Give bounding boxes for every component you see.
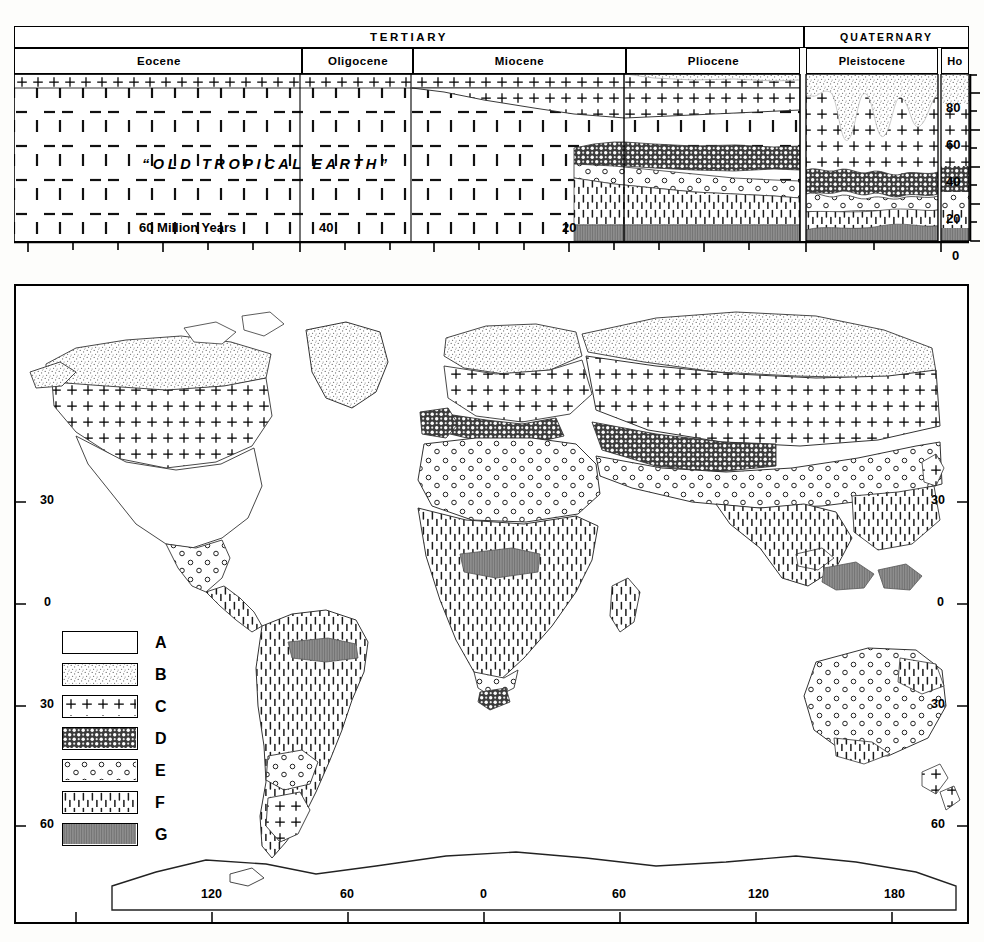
region-australasia: [796, 548, 960, 810]
legend-label-c: C: [155, 698, 167, 716]
epoch-header-row: Eocene Oligocene Miocene Pliocene: [14, 48, 800, 74]
region-north-america: [30, 312, 388, 632]
map-lat-label-right-30s: 30: [931, 697, 945, 711]
legend-item-c: C: [62, 692, 192, 721]
epoch-label-pleistocene: Pleistocene: [807, 49, 937, 73]
legend-item-e: E: [62, 756, 192, 785]
region-antarctica: [112, 852, 956, 910]
legend-label-a: A: [155, 634, 167, 652]
epoch-header-pleistocene: Pleistocene: [806, 48, 938, 74]
map-lat-label-right-60s: 60: [931, 817, 945, 831]
y-tick-label-20: 20: [946, 211, 960, 226]
legend-item-f: F: [62, 788, 192, 817]
timechart-plot: “OLD TROPICAL EARTH”: [14, 74, 969, 241]
legend-item-d: D: [62, 724, 192, 753]
legend-item-g: G: [62, 820, 192, 849]
epoch-header-holocene: Ho: [941, 48, 969, 74]
epoch-label-oligocene: Oligocene: [303, 49, 413, 73]
map-lon-label-60w: 60: [340, 887, 354, 901]
map-lon-label-120e: 120: [748, 887, 769, 901]
legend-item-a: A: [62, 628, 192, 657]
legend-label-g: G: [155, 826, 167, 844]
map-lat-label-right-30n: 30: [931, 493, 945, 507]
x-tick-label-20: 20: [562, 220, 576, 235]
x-tick-label-40: 40: [319, 220, 333, 235]
y-tick-label-60: 60: [946, 137, 960, 152]
legend-swatch-c: [62, 695, 138, 718]
epoch-label-miocene: Miocene: [413, 49, 626, 73]
legend-label-e: E: [155, 762, 166, 780]
map-legend: A B C D E: [62, 628, 192, 852]
map-lon-label-120w: 120: [201, 887, 222, 901]
map-lat-label-left-0: 0: [44, 595, 51, 609]
timechart-y-axis: [969, 74, 984, 246]
stratigraphic-chart: TERTIARY QUATERNARY Eocene Oligocene Mio…: [14, 26, 969, 266]
legend-label-d: D: [155, 730, 167, 748]
map-lon-label-0: 0: [480, 887, 487, 901]
legend-item-b: B: [62, 660, 192, 689]
era-label-tertiary: TERTIARY: [15, 27, 803, 47]
legend-swatch-a: [62, 631, 138, 654]
y-tick-label-80: 80: [946, 100, 960, 115]
epoch-label-holocene: Ho: [942, 49, 968, 73]
map-lon-label-60e: 60: [612, 887, 626, 901]
y-tick-label-40: 40: [946, 174, 960, 189]
timechart-x-axis: [14, 241, 969, 266]
era-label-quaternary: QUATERNARY: [805, 27, 968, 47]
region-south-america: [256, 610, 368, 858]
map-lat-label-left-30s: 30: [40, 697, 54, 711]
map-lat-label-right-0: 0: [937, 595, 944, 609]
epoch-label-eocene: Eocene: [15, 49, 303, 73]
legend-label-f: F: [155, 794, 165, 812]
legend-label-b: B: [155, 666, 167, 684]
region-asia: [582, 312, 944, 586]
epoch-label-pliocene: Pliocene: [626, 49, 801, 73]
era-header-tertiary: TERTIARY: [14, 26, 804, 48]
map-lat-label-left-30n: 30: [40, 493, 54, 507]
legend-swatch-f: [62, 791, 138, 814]
map-lon-label-180: 180: [884, 887, 905, 901]
legend-swatch-d: [62, 727, 138, 750]
y-tick-label-0: 0: [952, 248, 959, 263]
legend-swatch-g: [62, 823, 138, 846]
map-lat-label-left-60s: 60: [40, 817, 54, 831]
x-tick-label-60: 60 Million Years: [139, 220, 236, 235]
era-header-quaternary: QUATERNARY: [804, 26, 969, 48]
old-tropical-earth-annotation: “OLD TROPICAL EARTH”: [142, 156, 391, 172]
legend-swatch-b: [62, 663, 138, 686]
legend-swatch-e: [62, 759, 138, 782]
